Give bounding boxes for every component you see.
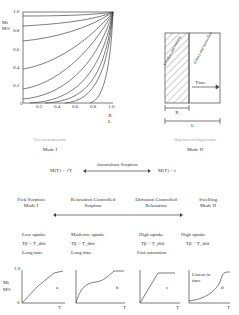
small-y-zero: 0	[17, 300, 20, 306]
y-tick: 0.2	[13, 83, 19, 89]
y-tick: 1.0	[13, 9, 19, 15]
linear-t-equation: M(T) = t	[158, 168, 176, 174]
x-label-a: T	[58, 305, 61, 311]
small-ylabel-top: Mt	[3, 280, 9, 286]
x-label-d: T	[227, 305, 230, 311]
mode-1-caption: Mode I	[25, 147, 75, 153]
plot-label-d: d	[221, 285, 224, 291]
duration-c: Fast saturation	[137, 250, 166, 256]
mode-2-caption: Mode II	[170, 147, 220, 153]
mode-1-subcaption: Ficks concentration profile	[25, 138, 75, 142]
plot-label-b: b	[116, 285, 119, 291]
x-tick: 0.8	[90, 104, 96, 110]
linear-in-time-note: Linear in time	[192, 272, 216, 284]
uptake-a: Low uptake	[22, 232, 46, 238]
y-tick: 0.4	[13, 65, 19, 71]
time-rel-c: Tβ ~ T_diff	[141, 241, 165, 247]
y-tick: 0	[20, 101, 23, 107]
anomalous-sorption-label: Anomalous Sorption	[80, 162, 154, 168]
category-swelling: SwellingMode II	[188, 197, 228, 209]
duration-b: Long time	[71, 250, 92, 256]
category-relaxation: Relaxation ControlledSorption	[60, 197, 126, 209]
dimension-x: X	[175, 110, 179, 116]
sqrt-t-equation: M(T) = √T	[50, 168, 72, 174]
x-tick: 0.4	[54, 104, 60, 110]
x-tick: 0.2	[36, 104, 42, 110]
x-axis-label-bottom: L	[108, 119, 111, 125]
x-label-c: T	[176, 305, 179, 311]
x-tick: 1.0	[108, 104, 114, 110]
y-tick: 0.8	[13, 28, 19, 34]
mode-2-subcaption: Sharp front of swelling penetration	[160, 138, 230, 142]
time-arrow-label: Time	[195, 80, 205, 86]
duration-a: Long time	[22, 250, 43, 256]
y-tick: 0.6	[13, 47, 19, 53]
plot-label-a: a	[56, 285, 58, 291]
category-diffusion: Diffusion ControlledRelaxation	[126, 197, 186, 209]
uptake-c: High uptake	[139, 232, 164, 238]
uptake-b: Moderate uptake	[71, 232, 105, 238]
time-rel-a: Tβ > T_diff	[22, 241, 46, 247]
time-rel-b: Tβ > T_diff	[71, 241, 95, 247]
time-rel-d: Tβ ~ T_diff	[186, 241, 210, 247]
y-axis-label-bottom: M∞	[2, 26, 10, 32]
dimension-l: L	[191, 123, 194, 129]
x-tick: 0.6	[72, 104, 78, 110]
x-label-b: T	[123, 305, 126, 311]
small-ylabel-bottom: M∞	[3, 287, 11, 293]
concentration-plot	[23, 12, 113, 103]
plot-label-c: c	[166, 285, 168, 291]
uptake-d: High uptake	[181, 232, 206, 238]
category-fick: Fick SorptionMode I	[8, 197, 54, 209]
small-y-top: 1.0	[14, 266, 20, 272]
